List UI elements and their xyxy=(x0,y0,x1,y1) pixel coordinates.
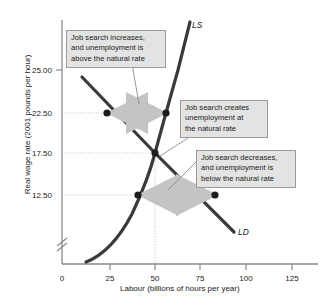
data-point-ld-below xyxy=(211,191,218,198)
x-ticklabel-50: 50 xyxy=(151,274,160,283)
annotation-at-natural-rate: Job search creates unemployment at the n… xyxy=(180,100,268,138)
data-point-ls-below xyxy=(134,191,141,198)
x-ticklabel-25: 25 xyxy=(106,274,115,283)
y-ticklabel-22-50: 22.50 xyxy=(32,109,53,118)
labour-market-chart: 25.00 22.50 17.50 12.50 0 25 50 75 100 1… xyxy=(0,0,331,305)
x-ticklabel-100: 100 xyxy=(239,274,253,283)
data-point-ls-above xyxy=(162,109,169,116)
x-ticklabel-0: 0 xyxy=(60,274,65,283)
annotation-below-natural-rate: Job search decreases, and unemployment i… xyxy=(196,150,296,188)
y-axis-title: Real wage rate (2001 pounds per hour) xyxy=(23,30,32,220)
x-ticks xyxy=(110,264,292,270)
y-ticklabel-25-00: 25.00 xyxy=(32,66,53,75)
x-ticklabel-125: 125 xyxy=(285,274,299,283)
annotation-above-natural-rate: Job search increases, and unemployment i… xyxy=(66,30,166,68)
leader-line-center xyxy=(160,138,188,156)
leader-line-below xyxy=(168,160,198,190)
data-point-equilibrium xyxy=(151,149,158,156)
y-ticklabel-12-50: 12.50 xyxy=(32,191,53,200)
curve-label-ls: LS xyxy=(192,20,203,30)
x-ticklabel-75: 75 xyxy=(196,274,205,283)
y-ticklabel-17-50: 17.50 xyxy=(32,149,53,158)
data-point-ld-above xyxy=(103,109,110,116)
curve-label-ld: LD xyxy=(238,227,249,237)
x-axis-title: Labour (billions of hours per year) xyxy=(120,284,320,293)
